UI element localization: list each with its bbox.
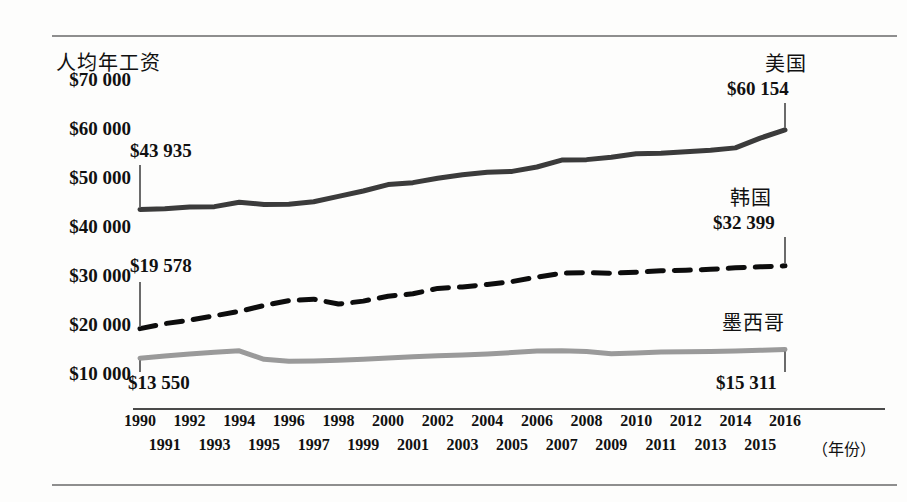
x-tick-label: 2016 [769, 412, 801, 430]
x-tick-label: 2006 [521, 412, 553, 430]
x-axis-title: （年份） [812, 436, 876, 460]
x-tick-label: 2013 [695, 436, 727, 454]
x-tick-label: 1995 [248, 436, 280, 454]
x-tick-label: 2001 [397, 436, 429, 454]
x-tick-label: 1994 [223, 412, 255, 430]
series-label-kr-value: $32 399 [713, 212, 775, 234]
x-tick-label: 2005 [496, 436, 528, 454]
series-line-kr [140, 266, 785, 329]
series-start-mx-value: $13 550 [128, 372, 190, 394]
x-tick-label: 1991 [149, 436, 181, 454]
x-tick-label: 1999 [347, 436, 379, 454]
series-label-us-name: 美国 [765, 48, 807, 77]
x-tick-label: 2004 [471, 412, 503, 430]
series-start-kr-value: $19 578 [130, 255, 192, 277]
x-axis-tick-labels: （年份） 19901992199419961998200020022004200… [0, 412, 907, 472]
x-tick-label: 2008 [571, 412, 603, 430]
x-tick-label: 2002 [422, 412, 454, 430]
x-tick-label: 2003 [447, 436, 479, 454]
x-tick-label: 2012 [670, 412, 702, 430]
series-label-us-value: $60 154 [727, 78, 789, 100]
series-start-us-value: $43 935 [130, 140, 192, 162]
x-tick-label: 2015 [744, 436, 776, 454]
x-tick-label: 2011 [645, 436, 676, 454]
x-tick-label: 2007 [546, 436, 578, 454]
x-tick-label: 2000 [372, 412, 404, 430]
series-label-mx-name: 墨西哥 [722, 307, 785, 336]
chart-figure: 人均年工资 $10 000$20 000$30 000$40 000$50 00… [0, 0, 907, 502]
x-tick-label: 2014 [719, 412, 751, 430]
x-tick-label: 1996 [273, 412, 305, 430]
x-tick-label: 1998 [322, 412, 354, 430]
x-tick-label: 1990 [124, 412, 156, 430]
series-label-kr-name: 韩国 [730, 182, 772, 211]
x-tick-label: 1997 [298, 436, 330, 454]
x-tick-label: 2009 [595, 436, 627, 454]
x-axis-line [133, 408, 885, 410]
series-line-us [140, 130, 785, 209]
x-tick-label: 1992 [174, 412, 206, 430]
series-label-mx-value: $15 311 [716, 372, 777, 394]
x-tick-label: 2010 [620, 412, 652, 430]
series-line-mx [140, 350, 785, 362]
x-tick-label: 1993 [198, 436, 230, 454]
